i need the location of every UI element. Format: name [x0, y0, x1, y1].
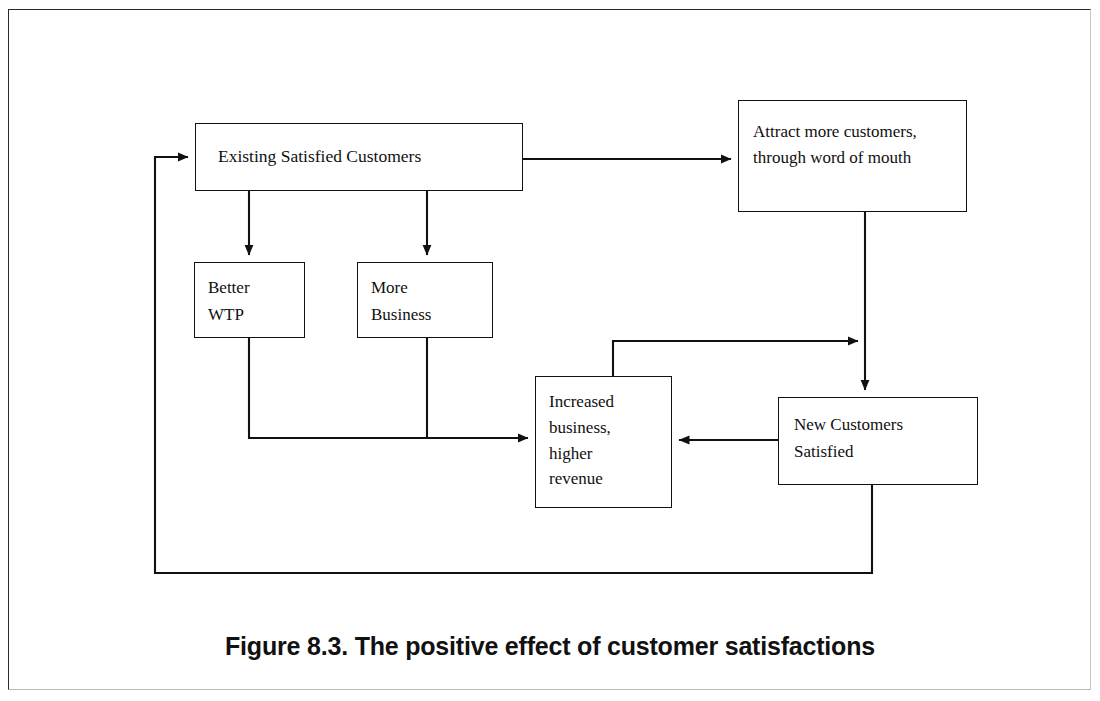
- node-new-customers-satisfied-label: New Customers Satisfied: [794, 411, 977, 465]
- node-new-customers-satisfied[interactable]: New Customers Satisfied: [778, 397, 978, 485]
- node-existing-satisfied-customers-label: Existing Satisfied Customers: [218, 145, 421, 169]
- node-better-wtp-label: Better WTP: [208, 274, 304, 328]
- node-attract-more-customers[interactable]: Attract more customers, through word of …: [738, 100, 967, 212]
- edge-increased-to-newcustomers: [613, 341, 858, 376]
- node-existing-satisfied-customers[interactable]: Existing Satisfied Customers: [195, 123, 523, 191]
- node-more-business-label: More Business: [371, 274, 492, 328]
- node-attract-more-customers-label: Attract more customers, through word of …: [753, 119, 966, 172]
- node-better-wtp[interactable]: Better WTP: [194, 262, 305, 338]
- node-more-business[interactable]: More Business: [357, 262, 493, 338]
- node-increased-business-higher-revenue[interactable]: Increased business, higher revenue: [535, 376, 672, 508]
- figure-page: Existing Satisfied Customers Attract mor…: [0, 0, 1100, 701]
- figure-caption: Figure 8.3. The positive effect of custo…: [0, 632, 1100, 661]
- edge-better-to-increased: [249, 338, 528, 438]
- edge-newcustomers-to-existing-feedback: [155, 157, 872, 573]
- node-increased-business-higher-revenue-label: Increased business, higher revenue: [549, 389, 671, 492]
